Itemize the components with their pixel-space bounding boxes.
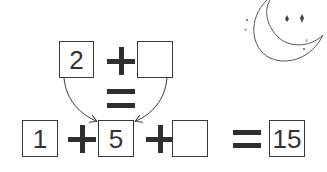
bottom-plus-2-icon [146,125,174,153]
svg-text:x: x [244,26,247,32]
bottom-box-1-value: 1 [33,126,47,152]
top-plus-icon [107,47,135,75]
crescent-moon-icon: x x [244,0,323,61]
result-value: 15 [273,126,302,152]
bottom-box-3[interactable] [172,120,208,157]
star-icon [285,15,289,22]
middle-equals-icon [107,89,135,109]
top-left-box: 2 [59,41,94,78]
dot-icon [246,19,248,21]
right-arrow [136,78,167,121]
bottom-box-1: 1 [22,120,58,157]
top-right-box[interactable] [137,41,173,78]
bottom-equals-icon [233,130,261,149]
top-left-value: 2 [69,47,83,73]
dot-icon [303,48,305,50]
bottom-box-2-value: 5 [109,126,123,152]
bottom-plus-1-icon [68,125,96,153]
result-box: 15 [269,120,305,157]
left-arrow [64,78,96,121]
svg-text:x: x [305,37,308,43]
star-icon [300,14,304,23]
bottom-box-2: 5 [98,120,134,157]
